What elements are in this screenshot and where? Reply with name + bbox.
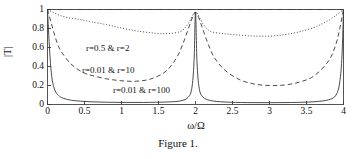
y-tick-label: 1 [39,5,44,15]
x-tick-label: 4 [341,107,346,117]
x-tick-label: 1 [119,107,124,117]
plot-area: 00.511.522.533.54 00.20.40.60.81 ω/Ω |T|… [0,0,357,125]
x-tick-label: 3 [267,107,272,117]
x-tick-label: 2 [193,107,198,117]
y-tick-label: 0 [39,100,44,110]
y-axis-title: |T| [2,46,13,57]
plot-frame [48,10,344,105]
curve-annotation-dotted: r=0.5 & r=2 [86,44,129,53]
y-tick-label: 0.2 [32,81,44,91]
x-tick-label: 2.5 [227,107,239,117]
curve-annotation-solid: r=0.01 & r=100 [113,86,170,95]
x-tick-label: 0.5 [79,107,91,117]
x-axis-title: ω/Ω [187,120,205,131]
figure-caption: Figure 1. [158,137,198,149]
y-tick-label: 0.4 [32,62,44,72]
x-tick-label: 1.5 [153,107,165,117]
x-tick-label: 0 [45,107,50,117]
y-tick-label: 0.6 [32,43,44,53]
y-tick-label: 0.8 [32,24,44,34]
x-tick-label: 3.5 [301,107,313,117]
figure-container: 00.511.522.533.54 00.20.40.60.81 ω/Ω |T|… [0,0,357,159]
curve-annotation-dashed: r=0.01 & r=10 [82,66,134,75]
